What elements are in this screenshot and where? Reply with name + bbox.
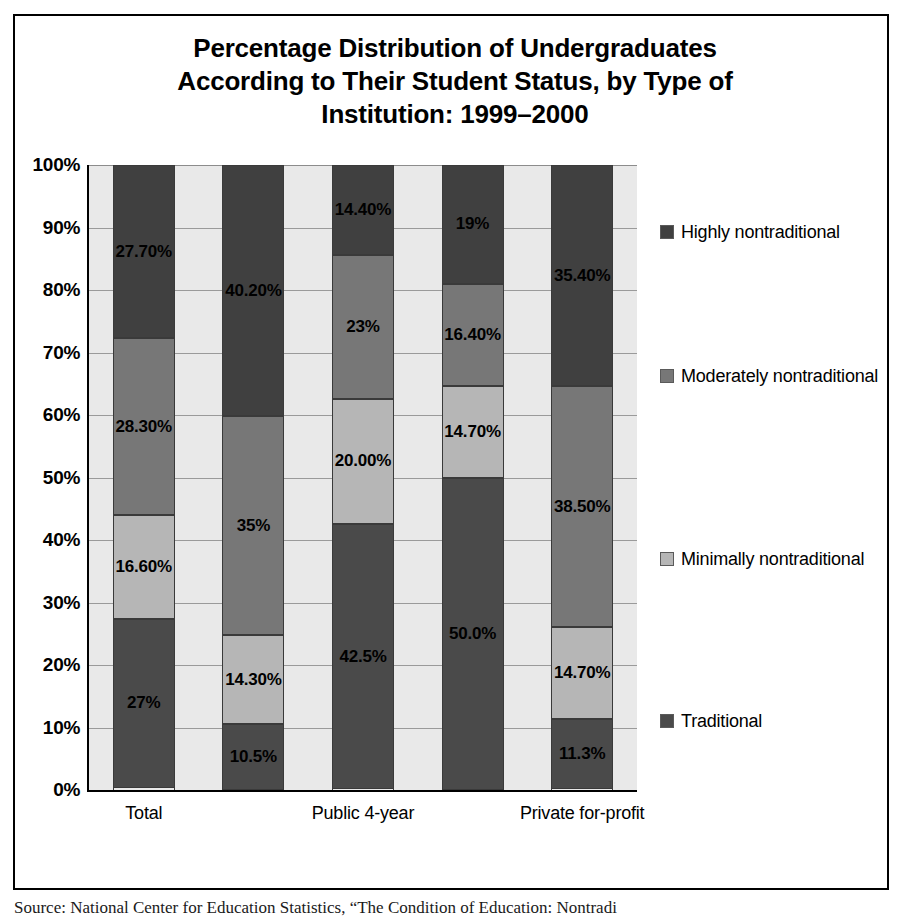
- legend-swatch-icon: [660, 714, 674, 728]
- bar-segment-value-label: 35.40%: [554, 266, 610, 286]
- legend-entry[interactable]: Minimally nontraditional: [660, 548, 864, 571]
- y-axis-tick-label: 40%: [43, 529, 80, 551]
- plot-area: 100%90%80%70%60%50%40%30%20%10%0% 27.70%…: [87, 165, 637, 792]
- chart-title-line-2: According to Their Student Status, by Ty…: [75, 65, 835, 98]
- y-axis-tick-label: 60%: [43, 404, 80, 426]
- y-axis-tick-label: 50%: [43, 467, 80, 489]
- bar-segment-value-label: 27%: [127, 693, 160, 713]
- legend-swatch-icon: [660, 225, 674, 239]
- legend-label: Moderately nontraditional: [681, 365, 878, 388]
- bar-segment[interactable]: 28.30%: [114, 338, 174, 515]
- y-axis-tick-label: 90%: [43, 217, 80, 239]
- bar-slot: 14.40%23%20.00%42.5%Public 4-year: [308, 165, 418, 790]
- bar-segment[interactable]: 16.40%: [443, 284, 503, 386]
- bar-segment[interactable]: 42.5%: [333, 524, 393, 790]
- bar-segment[interactable]: 50.0%: [443, 478, 503, 790]
- legend-label: Minimally nontraditional: [681, 548, 864, 571]
- bar-segment-value-label: 20.00%: [335, 451, 391, 471]
- y-axis-tick-label: 100%: [33, 154, 80, 176]
- chart-title: Percentage Distribution of Undergraduate…: [75, 32, 835, 131]
- bar-segment-value-label: 16.40%: [444, 325, 500, 345]
- bar-segment[interactable]: 11.3%: [552, 719, 612, 790]
- stacked-bar-column[interactable]: 35.40%38.50%14.70%11.3%: [551, 165, 613, 790]
- bar-segment-value-label: 14.30%: [225, 670, 281, 690]
- y-axis-tick-label: 80%: [43, 279, 80, 301]
- bar-segment[interactable]: 14.40%: [333, 165, 393, 255]
- bar-segment[interactable]: 16.60%: [114, 515, 174, 619]
- bar-segment[interactable]: 10.5%: [223, 724, 283, 790]
- bar-segment[interactable]: 14.30%: [223, 635, 283, 724]
- y-axis-tick-label: 70%: [43, 342, 80, 364]
- y-axis-tick-label: 20%: [43, 654, 80, 676]
- legend-swatch-icon: [660, 369, 674, 383]
- y-axis-tick-label: 30%: [43, 592, 80, 614]
- bar-segment[interactable]: 14.70%: [443, 386, 503, 478]
- chart-title-line-3: Institution: 1999–2000: [75, 98, 835, 131]
- x-axis-tick-label: Total: [125, 803, 162, 824]
- bar-slot: 27.70%28.30%16.60%27%Total: [89, 165, 199, 790]
- legend-entry[interactable]: Traditional: [660, 710, 762, 733]
- bar-segment-value-label: 14.70%: [554, 663, 610, 683]
- legend-entry[interactable]: Highly nontraditional: [660, 221, 840, 244]
- bar-segment[interactable]: 35%: [223, 416, 283, 635]
- bar-segment-value-label: 14.70%: [444, 422, 500, 442]
- bar-segment-value-label: 38.50%: [554, 497, 610, 517]
- bar-segment[interactable]: 14.70%: [552, 627, 612, 719]
- bar-segment-value-label: 14.40%: [335, 200, 391, 220]
- bar-segment-value-label: 10.5%: [230, 747, 277, 767]
- bar-segment-value-label: 28.30%: [116, 417, 172, 437]
- bar-slot: 35.40%38.50%14.70%11.3%Private for-profi…: [527, 165, 637, 790]
- plot-wrapper: 100%90%80%70%60%50%40%30%20%10%0% 27.70%…: [87, 165, 637, 792]
- bar-segment-value-label: 23%: [346, 317, 379, 337]
- legend-label: Highly nontraditional: [681, 221, 840, 244]
- stacked-bar-column[interactable]: 14.40%23%20.00%42.5%: [332, 165, 394, 790]
- stacked-bar-column[interactable]: 27.70%28.30%16.60%27%: [113, 165, 175, 790]
- stacked-bar-group: 27.70%28.30%16.60%27%Total40.20%35%14.30…: [89, 165, 637, 790]
- bar-segment-value-label: 19%: [456, 214, 489, 234]
- stacked-bar-column[interactable]: 19%16.40%14.70%50.0%: [442, 165, 504, 790]
- y-axis-tick-label: 0%: [53, 779, 80, 801]
- bar-segment[interactable]: 23%: [333, 255, 393, 399]
- bar-segment[interactable]: 27.70%: [114, 165, 174, 338]
- stacked-bar-column[interactable]: 40.20%35%14.30%10.5%: [222, 165, 284, 790]
- source-note: Source: National Center for Education St…: [14, 898, 894, 918]
- x-axis-tick-label: Private for-profit: [520, 803, 644, 824]
- x-axis-tick-label: Public 4-year: [312, 803, 414, 824]
- chart-legend: Highly nontraditionalModerately nontradi…: [660, 165, 885, 792]
- chart-title-line-1: Percentage Distribution of Undergraduate…: [75, 32, 835, 65]
- bar-segment-value-label: 50.0%: [449, 624, 496, 644]
- bar-segment-value-label: 27.70%: [116, 242, 172, 262]
- bar-segment-value-label: 11.3%: [559, 744, 605, 764]
- bar-segment[interactable]: 40.20%: [223, 165, 283, 416]
- bar-segment[interactable]: 20.00%: [333, 399, 393, 524]
- chart-figure-frame: Percentage Distribution of Undergraduate…: [13, 14, 889, 890]
- bar-slot: 40.20%35%14.30%10.5%: [199, 165, 309, 790]
- bar-segment[interactable]: 19%: [443, 165, 503, 284]
- legend-label: Traditional: [681, 710, 762, 733]
- bar-segment[interactable]: 27%: [114, 619, 174, 788]
- bar-segment[interactable]: 38.50%: [552, 386, 612, 627]
- bar-slot: 19%16.40%14.70%50.0%: [418, 165, 528, 790]
- y-axis-tick-label: 10%: [43, 717, 80, 739]
- bar-segment[interactable]: 35.40%: [552, 165, 612, 386]
- bar-segment-value-label: 35%: [237, 516, 270, 536]
- bar-segment-value-label: 42.5%: [339, 647, 386, 667]
- bar-segment-value-label: 16.60%: [116, 557, 172, 577]
- legend-entry[interactable]: Moderately nontraditional: [660, 365, 878, 388]
- bar-segment-value-label: 40.20%: [225, 281, 281, 301]
- legend-swatch-icon: [660, 552, 674, 566]
